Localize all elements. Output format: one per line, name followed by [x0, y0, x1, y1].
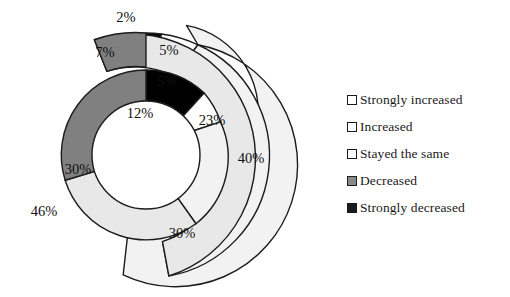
- legend-item-decreased[interactable]: Decreased: [347, 167, 507, 194]
- legend-swatch-decreased: [347, 176, 357, 186]
- legend-label-increased: Increased: [360, 120, 413, 134]
- legend-item-strongly-decreased[interactable]: Strongly decreased: [347, 194, 507, 221]
- chart-plot-area: 2% 5% 40% 46% 7% 12% 5% 23% 30% 30%: [0, 0, 330, 297]
- inner-label-strongly-decreased: 12%: [127, 105, 154, 121]
- legend-swatch-increased: [347, 122, 357, 132]
- inner-label-increased: 23%: [199, 112, 226, 128]
- outer-label-strongly-decreased: 2%: [116, 9, 135, 25]
- inner-label-stayed-the-same: 30%: [169, 225, 196, 241]
- legend-label-stayed-the-same: Stayed the same: [360, 147, 449, 161]
- legend-swatch-strongly-decreased: [347, 203, 357, 213]
- outer-label-stayed-the-same: 46%: [31, 203, 58, 219]
- legend-item-stayed-the-same[interactable]: Stayed the same: [347, 140, 507, 167]
- legend-swatch-strongly-increased: [347, 95, 357, 105]
- legend-label-strongly-increased: Strongly increased: [360, 93, 463, 107]
- legend-swatch-stayed-the-same: [347, 149, 357, 159]
- doughnut-chart-figure: 2% 5% 40% 46% 7% 12% 5% 23% 30% 30% Stro…: [0, 0, 510, 297]
- outer-label-decreased: 7%: [95, 44, 114, 60]
- legend-label-decreased: Decreased: [360, 174, 417, 188]
- outer-label-strongly-increased: 5%: [159, 42, 178, 58]
- legend-label-strongly-decreased: Strongly decreased: [360, 201, 465, 215]
- inner-label-decreased: 30%: [65, 161, 92, 177]
- outer-label-increased: 40%: [238, 150, 265, 166]
- chart-legend: Strongly increased Increased Stayed the …: [347, 86, 507, 221]
- legend-item-increased[interactable]: Increased: [347, 113, 507, 140]
- nested-doughnut-svg: 2% 5% 40% 46% 7% 12% 5% 23% 30% 30%: [0, 0, 330, 297]
- legend-item-strongly-increased[interactable]: Strongly increased: [347, 86, 507, 113]
- inner-label-strongly-increased: 5%: [157, 73, 176, 89]
